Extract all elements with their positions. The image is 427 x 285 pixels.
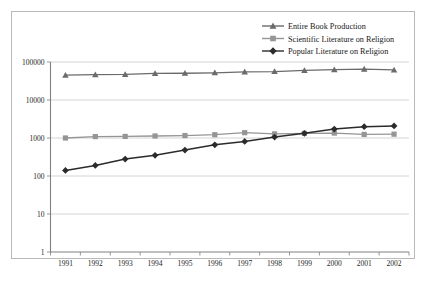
x-axis-tick-label: 1994 [148,259,163,268]
series-marker [182,147,189,154]
series-marker [241,138,248,145]
series-marker [242,130,247,135]
x-axis-tick-label: 1996 [207,259,222,268]
y-axis-tick-label: 1000 [30,134,45,143]
series-marker [391,123,398,130]
legend-label: Scientific Literature on Religion [288,35,394,44]
y-axis-tick-label: 100000 [22,58,45,67]
legend-marker [270,36,276,42]
series-marker [123,134,128,139]
y-axis-tick-label: 1 [41,248,45,257]
series-marker [122,156,129,163]
legend-label: Entire Book Production [288,22,366,31]
x-axis-tick-label: 1997 [237,259,252,268]
x-axis-tick-label: 1999 [297,259,312,268]
x-axis-tick-label: 2000 [327,259,342,268]
series-marker [62,167,69,174]
series-marker [63,135,68,140]
series-line [65,69,394,75]
x-axis-tick-label: 1991 [58,259,73,268]
series-marker [93,134,98,139]
series-marker [391,132,396,137]
series-marker [92,162,99,169]
x-axis-tick-label: 2002 [387,259,402,268]
y-axis-tick-label: 10 [37,210,45,219]
series-line [65,133,394,138]
series-marker [182,133,187,138]
legend-label: Popular Literature on Religion [288,47,388,56]
x-axis-tick-label: 1998 [267,259,282,268]
x-axis-tick-label: 2001 [357,259,372,268]
series-marker [211,141,218,148]
x-axis-tick-label: 1995 [177,259,192,268]
chart-figure: 1101001000100001000001991199219931994199… [0,0,427,285]
series-marker [152,133,157,138]
x-axis-tick-label: 1992 [88,259,103,268]
series-marker [361,123,368,130]
series-marker [362,132,367,137]
series-line [65,126,394,170]
line-chart: 1101001000100001000001991199219931994199… [0,0,427,285]
legend-marker [269,47,276,54]
series-marker [212,132,217,137]
y-axis-tick-label: 10000 [26,96,45,105]
x-axis-tick-label: 1993 [118,259,133,268]
series-marker [152,152,159,159]
y-axis-tick-label: 100 [33,172,45,181]
